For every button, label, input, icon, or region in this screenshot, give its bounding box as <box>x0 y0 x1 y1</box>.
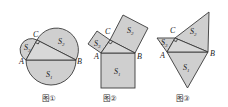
vertex-c: C <box>170 26 176 35</box>
figure-1-semicircles: A B C S1 S2 S3 图① <box>18 28 82 103</box>
vertex-c: C <box>105 27 111 36</box>
caption-fig2: 图② <box>103 94 117 103</box>
square-s1 <box>101 53 135 88</box>
vertex-b: B <box>77 57 82 66</box>
vertex-c: C <box>33 30 39 39</box>
vertex-b: B <box>210 49 215 58</box>
pythagorean-figures: A B C S1 S2 S3 图① A B C S1 S2 S3 图② A B … <box>0 0 228 107</box>
vertex-a: A <box>159 51 165 60</box>
figure-2-squares: A B C S1 S2 S3 图② <box>88 15 148 103</box>
vertex-a: A <box>18 57 24 66</box>
caption-fig1: 图① <box>42 94 56 103</box>
vertex-a: A <box>93 52 99 61</box>
vertex-b: B <box>137 52 142 61</box>
semicircle-s1 <box>26 60 76 85</box>
caption-fig3: 图③ <box>176 94 190 103</box>
figure-3-triangles: A B C S1 S2 S3 图③ <box>157 12 215 103</box>
